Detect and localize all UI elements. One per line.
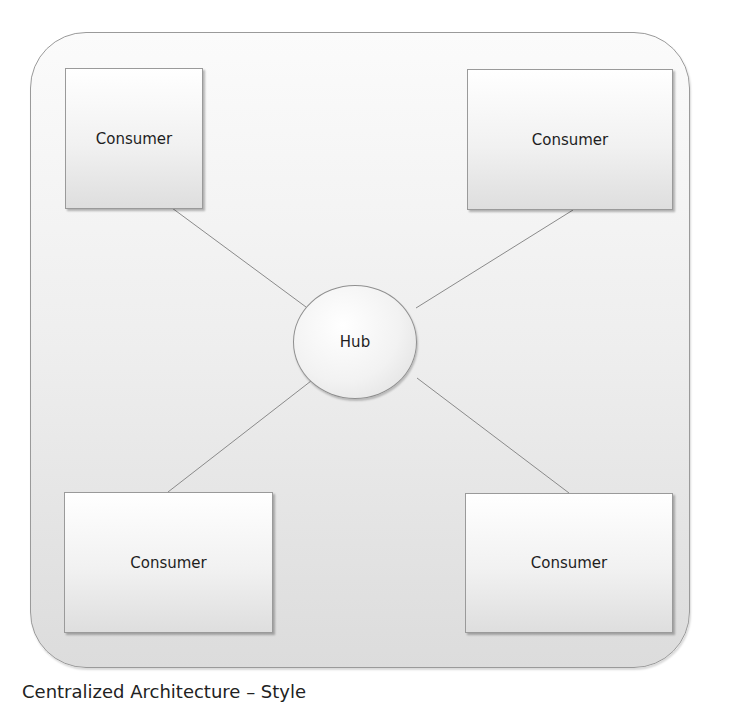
- consumer-node-top-left: Consumer: [65, 68, 203, 209]
- consumer-label: Consumer: [96, 130, 173, 148]
- consumer-label: Consumer: [532, 131, 609, 149]
- consumer-node-top-right: Consumer: [467, 69, 673, 210]
- hub-label: Hub: [340, 333, 370, 351]
- figure-caption: Centralized Architecture – Style: [22, 681, 306, 702]
- consumer-node-bottom-right: Consumer: [465, 493, 673, 633]
- consumer-node-bottom-left: Consumer: [64, 492, 273, 633]
- hub-node: Hub: [293, 285, 417, 399]
- consumer-label: Consumer: [531, 554, 608, 572]
- consumer-label: Consumer: [130, 554, 207, 572]
